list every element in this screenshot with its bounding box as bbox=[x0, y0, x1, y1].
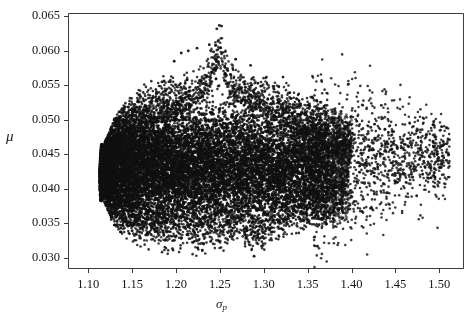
y-tick-label: 0.035 bbox=[8, 215, 60, 230]
y-tick-label: 0.030 bbox=[8, 250, 60, 265]
y-tick-label: 0.060 bbox=[8, 43, 60, 58]
y-tick-label: 0.045 bbox=[8, 146, 60, 161]
x-axis-label-subscript: p bbox=[222, 302, 227, 312]
x-tick-label: 1.50 bbox=[413, 277, 465, 292]
x-axis-label: σp bbox=[216, 296, 227, 312]
y-tick-label: 0.040 bbox=[8, 181, 60, 196]
scatter-plot-canvas bbox=[0, 0, 472, 321]
y-tick-label: 0.055 bbox=[8, 77, 60, 92]
y-tick-label: 0.050 bbox=[8, 112, 60, 127]
y-axis-label: μ bbox=[6, 128, 14, 145]
figure-scatter-plot: μ σp 0.0300.0350.0400.0450.0500.0550.060… bbox=[0, 0, 472, 321]
y-tick-label: 0.065 bbox=[8, 8, 60, 23]
